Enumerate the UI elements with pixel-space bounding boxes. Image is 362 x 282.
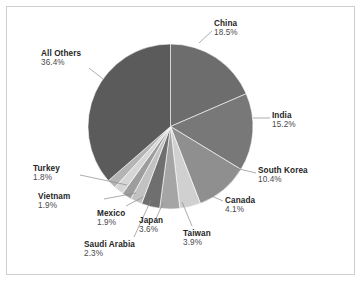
leader-line-all-others xyxy=(89,68,103,79)
pie-label-turkey-value: 1.8% xyxy=(33,173,60,182)
pie-label-all-others-name: All Others xyxy=(41,49,81,58)
pie-label-canada-value: 4.1% xyxy=(225,205,255,214)
pie-label-taiwan: Taiwan 3.9% xyxy=(183,229,211,247)
pie-label-china-value: 18.5% xyxy=(214,28,238,37)
pie-label-south-korea-value: 10.4% xyxy=(258,175,308,184)
pie-label-turkey: Turkey 1.8% xyxy=(33,164,60,182)
pie-label-taiwan-name: Taiwan xyxy=(183,229,211,238)
pie-label-japan-name: Japan xyxy=(139,216,163,225)
pie-label-turkey-name: Turkey xyxy=(33,164,60,173)
pie-label-japan: Japan 3.6% xyxy=(139,216,163,234)
pie-label-vietnam-name: Vietnam xyxy=(38,192,70,201)
pie-label-canada: Canada 4.1% xyxy=(225,196,255,214)
pie-label-mexico-name: Mexico xyxy=(97,209,125,218)
pie-slice-group xyxy=(88,44,253,209)
pie-label-all-others-value: 36.4% xyxy=(41,58,81,67)
pie-label-all-others: All Others 36.4% xyxy=(41,49,81,67)
leader-line-china xyxy=(199,31,212,43)
pie-label-mexico: Mexico 1.9% xyxy=(97,209,125,227)
pie-label-saudi-arabia-name: Saudi Arabia xyxy=(84,240,135,249)
pie-label-south-korea: South Korea 10.4% xyxy=(258,166,308,184)
pie-chart-canvas xyxy=(0,0,362,282)
pie-label-vietnam-value: 1.9% xyxy=(38,201,70,210)
pie-label-vietnam: Vietnam 1.9% xyxy=(38,192,70,210)
pie-chart-figure: China 18.5% India 15.2% South Korea 10.4… xyxy=(0,0,362,282)
pie-label-china-name: China xyxy=(214,19,238,28)
pie-label-china: China 18.5% xyxy=(214,19,238,37)
pie-label-saudi-arabia: Saudi Arabia 2.3% xyxy=(84,240,135,258)
pie-label-india-name: India xyxy=(272,111,296,120)
pie-label-india: India 15.2% xyxy=(272,111,296,129)
pie-label-mexico-value: 1.9% xyxy=(97,218,125,227)
pie-label-south-korea-name: South Korea xyxy=(258,166,308,175)
pie-label-saudi-arabia-value: 2.3% xyxy=(84,249,135,258)
pie-label-canada-name: Canada xyxy=(225,196,255,205)
pie-label-japan-value: 3.6% xyxy=(139,225,163,234)
pie-label-india-value: 15.2% xyxy=(272,120,296,129)
pie-label-taiwan-value: 3.9% xyxy=(183,238,211,247)
